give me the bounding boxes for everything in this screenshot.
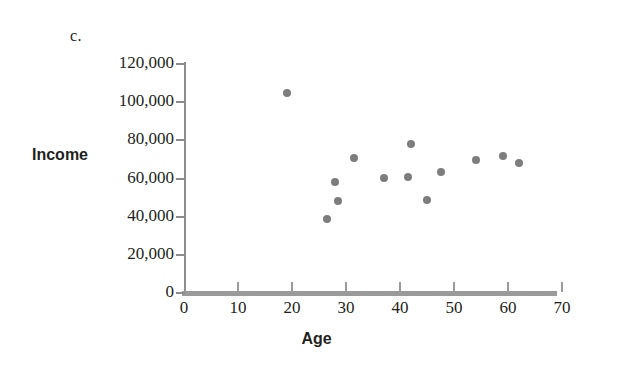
y-axis-tick-label: 20,000 (74, 244, 174, 264)
data-point (380, 174, 388, 182)
x-axis-tick (345, 282, 347, 292)
data-point (283, 89, 291, 97)
x-axis-tick-label: 50 (424, 298, 484, 318)
y-axis-tick-label: 100,000 (74, 91, 174, 111)
y-axis-tick (176, 216, 185, 218)
y-axis-tick (176, 254, 185, 256)
y-axis-tick (176, 63, 185, 65)
y-axis-tick-label: 120,000 (74, 53, 174, 73)
x-axis-tick (237, 282, 239, 292)
x-axis-tick-label: 20 (262, 298, 322, 318)
x-axis-tick-label: 0 (154, 298, 214, 318)
x-axis-tick-label: 70 (532, 298, 592, 318)
data-point (334, 197, 342, 205)
x-axis-tick (507, 282, 509, 292)
data-point (472, 156, 480, 164)
x-axis-tick (453, 282, 455, 292)
y-axis-tick (176, 139, 185, 141)
data-point (331, 178, 339, 186)
data-point (423, 196, 431, 204)
data-point (404, 173, 412, 181)
x-axis-tick-label: 10 (208, 298, 268, 318)
y-axis-tick (176, 101, 185, 103)
data-point (437, 168, 445, 176)
x-axis-tick (291, 282, 293, 292)
plot-area: 020,00040,00060,00080,000100,000120,000 … (0, 0, 623, 368)
y-axis-tick (176, 178, 185, 180)
data-point (407, 140, 415, 148)
data-point (515, 159, 523, 167)
x-axis-tick-label: 40 (370, 298, 430, 318)
data-point (499, 152, 507, 160)
x-axis-tick-label: 60 (478, 298, 538, 318)
y-axis-tick-label: 40,000 (74, 206, 174, 226)
x-axis-tick-label: 30 (316, 298, 376, 318)
scatter-plot-figure: c. Income Age 020,00040,00060,00080,0001… (0, 0, 623, 368)
data-point (323, 215, 331, 223)
x-axis-tick (561, 282, 563, 292)
data-point (350, 154, 358, 162)
y-axis-tick (176, 292, 185, 294)
y-axis-tick-label: 80,000 (74, 129, 174, 149)
y-axis-tick-label: 60,000 (74, 168, 174, 188)
x-axis-tick (399, 282, 401, 292)
